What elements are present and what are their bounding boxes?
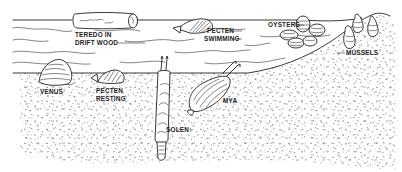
teredo-driftwood [73,13,138,29]
label-pecten-swimming-line2: SWIMMING [204,35,240,42]
label-pecten-swimming-line1: PECTEN [207,27,234,34]
label-venus: VENUS [40,88,64,95]
label-pecten-resting-line1: PECTEN [96,87,123,94]
label-teredo-line1: TEREDO IN [75,31,112,38]
label-pecten-resting-line2: RESTING [96,95,126,102]
bivalve-habitat-diagram: TEREDO IN DRIFT WOOD PECTEN SWIMMING OYS… [0,0,402,172]
label-solen: SOLEN [166,126,189,133]
label-mussels: MUSSELS [346,49,379,56]
label-mya: MYA [223,97,237,104]
label-oysters: OYSTERS [268,21,300,28]
label-teredo-line2: DRIFT WOOD [75,39,118,46]
venus-clam [39,59,74,85]
